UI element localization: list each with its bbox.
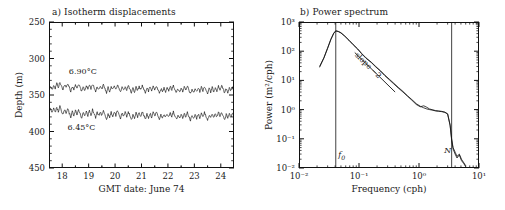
inertial-frequency-label: f0 (338, 150, 345, 161)
panel-isotherm-displacements: a) Isotherm displacements 18192021222324… (0, 0, 252, 210)
y-tick-5: 10³ (281, 17, 295, 27)
x-tick-2: 10⁰ (412, 171, 426, 181)
x-tick-18: 18 (57, 171, 68, 181)
y-tick-1: 10⁻¹ (276, 134, 295, 144)
x-tick-19: 19 (83, 171, 94, 181)
panel-a-x-axis-title: GMT date: June 74 (98, 184, 184, 194)
x-tick-20: 20 (110, 171, 121, 181)
panel-b-x-axis-title: Frequency (cph) (351, 184, 426, 194)
timeseries-690c (49, 83, 234, 94)
y-tick-0: 10⁻² (276, 163, 295, 173)
x-tick-24: 24 (215, 171, 226, 181)
y-tick-250: 250 (29, 17, 45, 27)
x-tick-23: 23 (189, 171, 200, 181)
f0-subscript: 0 (341, 154, 345, 161)
timeseries-645c (49, 106, 234, 122)
y-tick-4: 10² (281, 46, 295, 56)
y-tick-450: 450 (29, 163, 45, 173)
series-label-645c: 6.45°C (68, 123, 96, 132)
y-tick-3: 10¹ (281, 75, 295, 85)
panel-power-spectrum: b) Power spectrum 10⁻²10⁻¹10⁰10¹ 10⁻²10⁻… (252, 0, 505, 210)
y-tick-2: 10⁰ (281, 105, 295, 115)
y-tick-350: 350 (29, 90, 45, 100)
panel-a-canvas (0, 0, 252, 210)
buoyancy-frequency-label: N (444, 146, 451, 155)
y-tick-400: 400 (29, 127, 45, 137)
x-tick-22: 22 (163, 171, 174, 181)
panel-a-y-axis-title: Depth (m) (14, 72, 24, 118)
x-tick-21: 21 (136, 171, 147, 181)
x-tick-1: 10⁻¹ (350, 171, 369, 181)
series-label-690c: 6.90°C (69, 67, 97, 76)
x-tick-3: 10¹ (472, 171, 486, 181)
panel-b-y-axis-title: Power (m²/cph) (264, 60, 274, 130)
y-tick-300: 300 (29, 54, 45, 64)
figure-two-panel: a) Isotherm displacements 18192021222324… (0, 0, 505, 210)
